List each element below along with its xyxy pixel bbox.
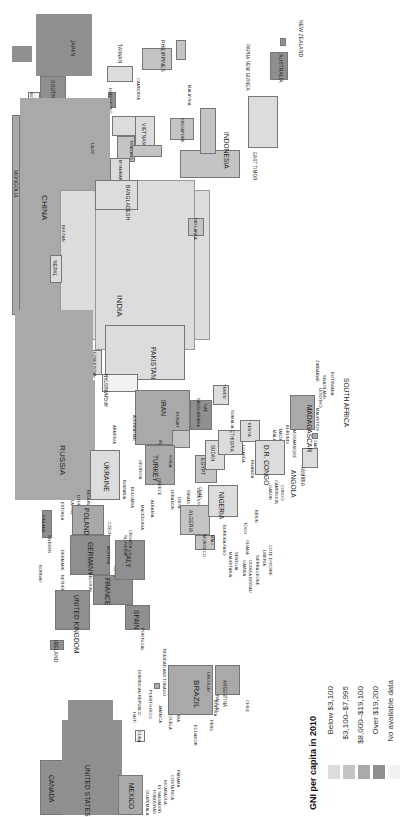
label-madagascar: MADAGASCAR <box>306 405 313 452</box>
label-new-zealand: NEW ZEALAND <box>298 20 304 57</box>
label-east-timor: EAST TIMOR <box>252 152 257 180</box>
legend-swatch <box>343 765 355 779</box>
label-peru: PERU <box>209 720 214 732</box>
label-puerto-rico: PUERTO RICO <box>148 690 153 719</box>
label-ethiopia: ETHIOPIA <box>229 430 234 452</box>
label-romania: ROMANIA <box>122 480 127 499</box>
label-dominican-republic: DOMINICAN REPUBLIC <box>137 670 142 716</box>
label-uganda: UGANDA <box>241 445 246 463</box>
country-pakistan <box>105 325 185 380</box>
label-cambodia: CAMBODIA <box>136 78 141 100</box>
label-somalia: SOMALIA <box>230 410 235 428</box>
country-new-zealand <box>280 38 286 46</box>
legend-label: $3,100–$7,995 <box>341 686 350 739</box>
label-afghanistan: AFGHANISTAN <box>104 374 109 407</box>
legend-swatch <box>388 765 400 779</box>
label-czech: CZECH <box>107 522 112 536</box>
label-burkina-faso: BURKINA FASO <box>222 525 227 556</box>
label-costa-rica: COSTA RICA <box>170 775 175 800</box>
label-algeria: ALGERIA <box>188 510 194 532</box>
label-saudi-arabia: SAUDI ARABIA <box>196 398 201 427</box>
label-vietnam: VIETNAM <box>141 123 147 146</box>
label-bangladesh: BANGLADESH <box>125 185 131 220</box>
label-bulgaria: BULGARIA <box>130 487 135 508</box>
label-jamaica: JAMAICA <box>158 705 163 723</box>
label-myanmar: MYANMAR <box>118 160 123 181</box>
legend-label: $8,000–$19,100 <box>356 686 365 744</box>
label-gambia: GAMBIA <box>242 560 247 576</box>
label-ghana: GHANA <box>245 540 250 555</box>
label-syria: SYRIA <box>168 455 173 468</box>
country-dr-congo <box>255 440 285 475</box>
label-chile: CHILE <box>245 700 250 712</box>
country-png <box>248 96 278 148</box>
legend-swatch <box>358 765 370 779</box>
country-taiwan <box>107 66 133 82</box>
label-poland: POLAND <box>83 508 90 535</box>
label-lebanon: LEBANON <box>170 490 175 510</box>
label-israel: ISRAEL <box>186 490 191 505</box>
label-laos: LAOS <box>90 143 95 154</box>
label-sri-lanka: SRI LANKA <box>193 218 198 240</box>
legend-label: No available data <box>386 680 395 742</box>
country-indonesia <box>200 108 216 154</box>
label-mauritius: MAURITIUS <box>315 408 320 431</box>
label-uk: UNITED KINGDOM <box>73 595 80 653</box>
label-canada: CANADA <box>48 775 55 803</box>
legend-label: Over $19,200 <box>371 686 380 734</box>
label-nepal: NEPAL <box>52 260 58 277</box>
label-finland: FINLAND <box>41 515 46 533</box>
label-gabon: GABON <box>268 485 273 500</box>
label-mauritania: MAURITANIA <box>228 552 233 577</box>
label-china: CHINA <box>40 195 49 220</box>
country-philippines <box>142 48 172 70</box>
country-argentina <box>215 665 240 695</box>
label-france: FRANCE <box>104 578 111 605</box>
label-mozambique: MOZAMBIQUE <box>292 430 297 458</box>
label-norway: NORWAY <box>38 565 43 583</box>
label-yemen: YEMEN <box>222 384 227 399</box>
country-united-states <box>62 720 122 815</box>
label-morocco: MOROCCO <box>202 535 207 557</box>
country-indonesia <box>180 150 240 178</box>
label-denmark: DENMARK <box>60 550 65 571</box>
label-australia: AUSTRALIA <box>278 54 284 83</box>
label-kuwait: KUWAIT <box>175 412 180 428</box>
label-germany: GERMANY <box>87 542 94 576</box>
legend-swatch <box>328 765 340 779</box>
label-ukraine: UKRAINE <box>103 462 110 492</box>
label-benin: BENIN <box>254 510 259 523</box>
label-mongolia: MONGOLIA <box>13 170 19 198</box>
legend-title: GNI per capita in 2010 <box>308 678 318 810</box>
label-macedonia: MACEDONIA <box>140 505 145 530</box>
label-india: INDIA <box>115 295 124 317</box>
label-guatemala: GUATEMALA <box>145 790 150 815</box>
country-algeria <box>180 505 210 535</box>
label-cameroon: CAMEROON <box>274 480 279 504</box>
label-singapore: SINGAPORE <box>180 118 185 143</box>
label-japan: JAPAN <box>70 40 76 56</box>
label-argentina: ARGENTINA <box>222 680 227 707</box>
label-georgia: GEORGIA <box>138 460 143 479</box>
label-taiwan: TAIWAN <box>117 44 123 64</box>
label-brazil: BRAZIL <box>192 680 201 709</box>
label-malaysia: MALAYSIA <box>187 85 192 106</box>
country-japan <box>56 60 82 74</box>
country-united-states <box>68 700 113 730</box>
country-malaysia <box>132 145 162 157</box>
label-austria: AUSTRIA <box>106 546 111 564</box>
label-mexico: MEXICO <box>128 783 135 809</box>
label-png: PAPUA NEW GUINEA <box>245 44 250 91</box>
label-togo: TOGO <box>243 522 248 534</box>
label-senegal: SENEGAL <box>234 552 239 572</box>
label-bhutan: BHUTAN <box>61 225 66 242</box>
label-sudan: SUDAN <box>210 445 215 461</box>
label-russia: RUSSIA <box>58 445 67 475</box>
label-dr-congo: D.R. CONGO <box>263 445 270 485</box>
country-saudi-arabia <box>190 400 212 430</box>
legend-swatch <box>373 765 385 779</box>
label-armenia: ARMENIA <box>112 425 117 444</box>
label-sweden: SWEDEN <box>47 535 52 553</box>
label-uruguay: URUGUAY <box>206 672 211 692</box>
